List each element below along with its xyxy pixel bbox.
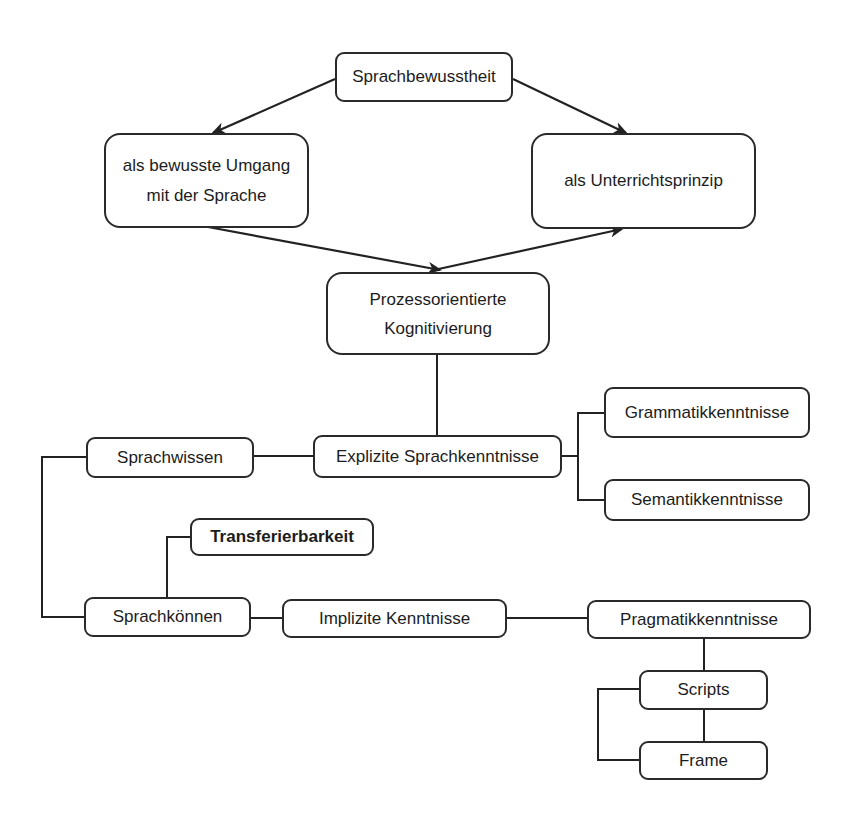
node-grammatikkenntnisse: Grammatikkenntnisse xyxy=(604,387,810,438)
node-sprachbewusstheit: Sprachbewusstheit xyxy=(335,52,513,102)
bracket-sprachwissen-sprachkoennen xyxy=(42,457,86,617)
arrow-sprachbewusstheit-to-unterrichtsprinzip xyxy=(513,79,626,133)
node-label-line2: Kognitivierung xyxy=(384,314,492,343)
node-bewusster-umgang: als bewusste Umgang mit der Sprache xyxy=(104,133,309,228)
arrow-sprachbewusstheit-to-umgang xyxy=(213,79,335,133)
node-frame: Frame xyxy=(639,741,768,780)
node-label: Implizite Kenntnisse xyxy=(319,605,470,633)
node-label: Grammatikkenntnisse xyxy=(625,399,789,427)
node-label: Frame xyxy=(679,747,728,775)
node-explizite-sprachkenntnisse: Explizite Sprachkenntnisse xyxy=(313,435,562,478)
node-label: Explizite Sprachkenntnisse xyxy=(336,443,539,471)
node-label: Transferierbarkeit xyxy=(210,523,354,551)
node-label: Scripts xyxy=(678,676,730,704)
node-label: Sprachwissen xyxy=(117,444,223,472)
concept-map-diagram: Sprachbewusstheit als bewusste Umgang mi… xyxy=(0,0,850,825)
node-implizite-kenntnisse: Implizite Kenntnisse xyxy=(282,599,507,638)
node-unterrichtsprinzip: als Unterrichtsprinzip xyxy=(531,133,756,229)
node-label: Semantikkenntnisse xyxy=(631,486,783,514)
node-kognitivierung: Prozessorientierte Kognitivierung xyxy=(326,272,550,355)
node-scripts: Scripts xyxy=(639,670,768,710)
arrow-umgang-to-kognitivierung xyxy=(208,227,440,270)
arrow-kognitivierung-to-unterrichtsprinzip xyxy=(434,229,622,270)
node-label: als Unterrichtsprinzip xyxy=(564,167,723,195)
node-label: Pragmatikkenntnisse xyxy=(620,606,778,634)
bracket-grammatik-semantik xyxy=(578,413,604,500)
node-label-line1: als bewusste Umgang xyxy=(123,151,290,181)
bracket-scripts-frame xyxy=(598,689,639,760)
node-sprachkoennen: Sprachkönnen xyxy=(84,597,251,637)
node-label-line2: mit der Sprache xyxy=(147,181,267,211)
node-label-line1: Prozessorientierte xyxy=(369,285,506,314)
node-label: Sprachkönnen xyxy=(113,603,223,631)
line-sprachkoennen-to-transferierbarkeit xyxy=(167,537,190,597)
node-sprachwissen: Sprachwissen xyxy=(86,437,254,478)
node-label: Sprachbewusstheit xyxy=(352,63,496,91)
node-semantikkenntnisse: Semantikkenntnisse xyxy=(604,479,810,521)
node-transferierbarkeit: Transferierbarkeit xyxy=(190,518,374,556)
node-pragmatikkenntnisse: Pragmatikkenntnisse xyxy=(587,600,811,639)
